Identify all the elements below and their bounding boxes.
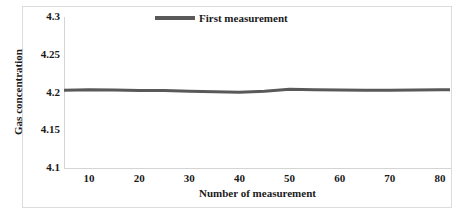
x-tick-label: 20 — [134, 172, 145, 184]
x-tick-label: 10 — [84, 172, 95, 184]
x-tick-label: 50 — [284, 172, 295, 184]
x-axis-line — [64, 168, 451, 169]
y-tick-label: 4.1 — [46, 161, 60, 173]
series-first-measurement — [64, 17, 450, 168]
chart-canvas: 4.14.154.24.254.3 1020304050607080 Gas c… — [0, 0, 475, 216]
y-tick-label: 4.3 — [46, 10, 60, 22]
x-tick-label: 80 — [434, 172, 445, 184]
y-tick-label: 4.15 — [41, 123, 60, 135]
plot-area — [64, 17, 450, 168]
x-tick-label: 60 — [334, 172, 345, 184]
x-axis-title: Number of measurement — [64, 187, 451, 199]
y-tick-label: 4.2 — [46, 86, 60, 98]
y-axis-title: Gas concentration — [12, 32, 24, 152]
x-tick-label: 70 — [384, 172, 395, 184]
series-line — [64, 89, 450, 92]
y-tick-label: 4.25 — [41, 48, 60, 60]
x-tick-label: 30 — [184, 172, 195, 184]
y-axis-tick-labels: 4.14.154.24.254.3 — [0, 0, 60, 216]
x-tick-label: 40 — [234, 172, 245, 184]
